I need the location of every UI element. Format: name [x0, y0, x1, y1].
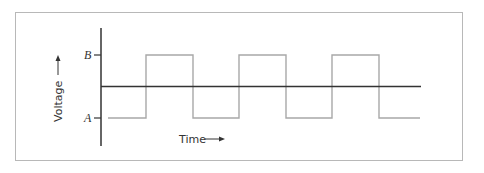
x-axis-label: Time — [178, 133, 206, 146]
level-label-a: A — [83, 111, 92, 125]
y-axis-label: Voltage — [52, 81, 65, 122]
x-axis-title: Time — [178, 133, 225, 146]
voltage-arrow-icon — [56, 55, 61, 61]
time-arrow-icon — [219, 137, 225, 142]
level-label-b: B — [84, 48, 92, 62]
square-wave-diagram: B A Voltage Time — [0, 0, 484, 173]
y-axis-title: Voltage — [52, 55, 65, 122]
